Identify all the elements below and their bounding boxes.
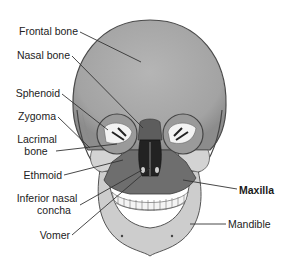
- label-lacrimal-bone-line2: bone: [18, 146, 54, 157]
- label-zygoma: Zygoma: [4, 111, 56, 122]
- skull-diagram: Frontal bone Nasal bone Sphenoid Zygoma …: [0, 0, 289, 275]
- nasal-bone-shape: [138, 119, 162, 140]
- label-lacrimal-bone-line1: Lacrimal: [12, 134, 62, 145]
- label-ethmoid: Ethmoid: [4, 170, 62, 181]
- label-frontal-bone: Frontal bone: [10, 26, 78, 37]
- orbit-left: [97, 114, 137, 154]
- label-inferior-nasal-concha-line2: concha: [30, 205, 78, 216]
- label-vomer: Vomer: [10, 230, 70, 241]
- label-sphenoid: Sphenoid: [4, 88, 60, 99]
- label-nasal-bone: Nasal bone: [10, 50, 70, 61]
- teeth: [112, 192, 188, 211]
- label-inferior-nasal-concha-line1: Inferior nasal: [10, 193, 84, 204]
- orbit-right: [163, 114, 203, 154]
- label-maxilla: Maxilla: [239, 185, 274, 196]
- label-mandible: Mandible: [228, 219, 271, 230]
